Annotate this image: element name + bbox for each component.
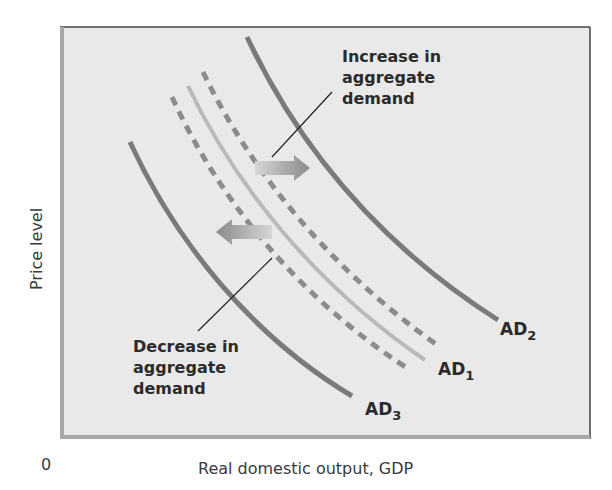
increase-label-line-3: demand [342, 89, 415, 108]
increase-label-line-1: Increase in [342, 47, 441, 66]
ad2-label-sub: 2 [527, 328, 536, 343]
ad1-label-main: AD [438, 359, 465, 379]
ad3-label-main: AD [365, 399, 392, 419]
decrease-label-line-1: Decrease in [133, 337, 239, 356]
ad1-label-sub: 1 [465, 368, 474, 383]
ad3-label-sub: 3 [392, 408, 401, 423]
decrease-label-line-3: demand [133, 379, 206, 398]
decrease-label-line-2: aggregate [133, 358, 226, 377]
y-axis-label: Price level [27, 208, 46, 290]
origin-label: 0 [41, 455, 51, 474]
increase-label-line-2: aggregate [342, 68, 435, 87]
x-axis-label: Real domestic output, GDP [198, 459, 414, 478]
ad2-label-main: AD [500, 319, 527, 339]
ad-shift-chart: AD2 AD1 AD3 Increase in aggregate demand… [0, 0, 612, 490]
